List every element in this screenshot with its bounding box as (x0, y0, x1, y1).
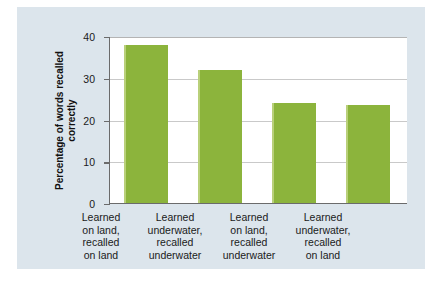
y-axis-title: Percentage of words recalled correctly (53, 37, 79, 204)
x-label-3-line-3: recalled (274, 236, 372, 249)
plot-area: 40 30 20 10 0 (109, 37, 407, 204)
gridline-40 (110, 37, 407, 38)
x-label-3-line-1: Learned (274, 211, 372, 224)
y-axis-title-line-1: Percentage of words (54, 92, 65, 190)
chart-panel: Percentage of words recalled correctly 4… (17, 7, 425, 269)
y-tick-0: 0 (104, 204, 110, 205)
y-tick-label-20: 20 (83, 115, 95, 127)
y-tick-10: 10 (104, 162, 110, 163)
x-label-3-line-4: on land (274, 249, 372, 262)
bar-0 (124, 45, 168, 203)
figure: Percentage of words recalled correctly 4… (0, 0, 440, 282)
y-tick-40: 40 (104, 37, 110, 38)
y-tick-label-0: 0 (89, 198, 95, 210)
bar-2 (272, 103, 316, 203)
y-tick-20: 20 (104, 121, 110, 122)
x-axis-label-3: Learned underwater, recalled on land (274, 211, 372, 261)
y-tick-30: 30 (104, 79, 110, 80)
y-tick-label-30: 30 (83, 73, 95, 85)
x-label-3-line-2: underwater, (274, 224, 372, 237)
y-tick-label-40: 40 (83, 31, 95, 43)
bar-1 (198, 70, 242, 203)
y-tick-label-10: 10 (83, 156, 95, 168)
bar-3 (346, 105, 390, 203)
